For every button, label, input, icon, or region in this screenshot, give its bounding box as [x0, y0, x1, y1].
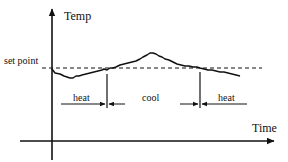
- setpoint-label: set point: [4, 56, 38, 66]
- region-label-heat-2: heat: [218, 93, 235, 103]
- x-axis-label: Time: [252, 122, 277, 134]
- diagram-canvas: [0, 0, 288, 162]
- region-label-heat-1: heat: [73, 93, 90, 103]
- region-label-cool: cool: [142, 93, 159, 103]
- thermostat-diagram: Temp Time set point heat cool heat: [0, 0, 288, 162]
- y-axis-label: Temp: [64, 10, 91, 22]
- temperature-curve: [52, 53, 240, 78]
